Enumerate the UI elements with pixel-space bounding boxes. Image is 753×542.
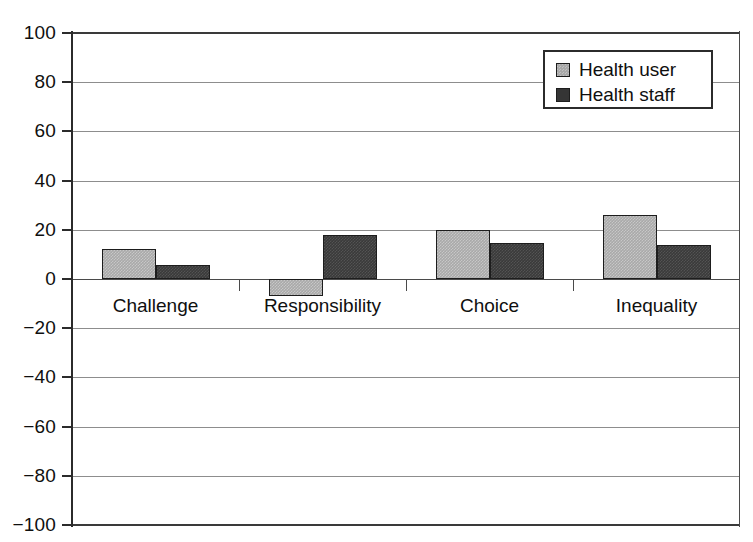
legend-label-health-user: Health user	[579, 60, 676, 79]
bar-inequality-health-staff	[657, 245, 711, 279]
gridline	[72, 377, 740, 378]
legend-swatch-health-staff	[556, 88, 570, 102]
gridline	[72, 131, 740, 132]
bar-responsibility-health-staff	[323, 235, 377, 279]
bar-challenge-health-user	[102, 249, 156, 279]
bar-chart: 100806040200−20−40−60−80−100 ChallengeRe…	[0, 0, 753, 542]
y-axis-tick-label: 80	[0, 72, 56, 91]
gridline	[72, 32, 740, 34]
y-axis-tick-label: 20	[0, 220, 56, 239]
y-axis-line	[71, 31, 73, 527]
legend-item: Health user	[556, 57, 711, 82]
x-axis-label-challenge: Challenge	[72, 295, 239, 317]
x-axis-label-choice: Choice	[406, 295, 573, 317]
y-axis-tick-label: 0	[0, 269, 56, 288]
bar-challenge-health-staff	[156, 265, 210, 279]
legend: Health user Health staff	[543, 50, 713, 109]
x-axis-tick	[239, 280, 240, 291]
bar-inequality-health-user	[603, 215, 657, 279]
legend-label-health-staff: Health staff	[579, 85, 675, 104]
x-axis-tick	[406, 280, 407, 291]
legend-item: Health staff	[556, 82, 711, 107]
gridline	[72, 524, 740, 526]
y-axis-tick-label: −20	[0, 318, 56, 337]
y-axis-tick-label: 40	[0, 171, 56, 190]
gridline	[72, 476, 740, 477]
bar-choice-health-staff	[490, 243, 544, 279]
gridline	[72, 181, 740, 182]
y-axis-tick-label: 100	[0, 23, 56, 42]
x-axis-tick	[573, 280, 574, 291]
gridline	[72, 427, 740, 428]
y-axis-tick-label: 60	[0, 121, 56, 140]
x-axis-label-inequality: Inequality	[573, 295, 740, 317]
y-axis-tick-label: −60	[0, 417, 56, 436]
y-axis-tick-label: −100	[0, 515, 56, 534]
plot-right-border	[739, 31, 740, 527]
bar-choice-health-user	[436, 230, 490, 279]
y-axis-tick-label: −80	[0, 466, 56, 485]
gridline	[72, 328, 740, 329]
x-axis-label-responsibility: Responsibility	[239, 295, 406, 317]
bar-responsibility-health-user	[269, 279, 323, 296]
y-axis-tick-label: −40	[0, 367, 56, 386]
legend-swatch-health-user	[556, 63, 570, 77]
